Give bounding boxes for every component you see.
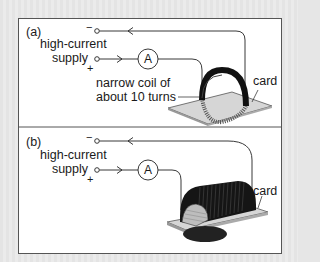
- card-label: card: [253, 74, 277, 88]
- coil-label: narrow coil of about 10 turns: [96, 76, 176, 104]
- panel-a-label: (a): [26, 25, 41, 39]
- negative-terminal-icon: [95, 139, 100, 144]
- panel-b-circuit: [95, 138, 268, 243]
- minus-sign: −: [86, 20, 92, 34]
- negative-terminal-icon: [95, 29, 100, 34]
- ammeter-label: A: [144, 52, 152, 66]
- panel-b-label: (b): [26, 135, 41, 149]
- ammeter-label: A: [144, 163, 152, 177]
- card-label: card: [253, 184, 277, 198]
- plus-sign: +: [87, 61, 93, 75]
- minus-sign: −: [86, 130, 92, 144]
- plus-sign: +: [87, 172, 93, 186]
